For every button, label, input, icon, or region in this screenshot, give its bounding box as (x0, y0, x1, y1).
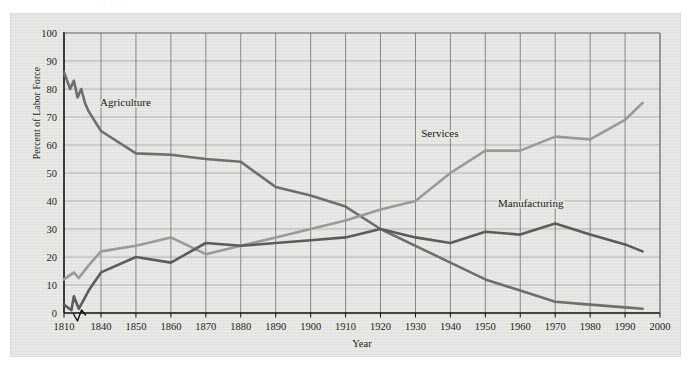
x-tick-label: 1910 (335, 321, 356, 332)
series-line-manufacturing (64, 223, 643, 310)
y-tick-label: 90 (47, 56, 58, 67)
x-axis-title: Year (352, 338, 372, 349)
y-tick-label: 10 (47, 280, 58, 291)
x-tick-label: 1810 (54, 321, 75, 332)
x-tick-label: 1960 (510, 321, 531, 332)
y-tick-label: 30 (47, 224, 58, 235)
x-tick-label: 1870 (195, 321, 216, 332)
x-tick-label: 1950 (475, 321, 496, 332)
x-tick-label: 1860 (160, 321, 181, 332)
y-tick-label: 70 (47, 112, 58, 123)
y-tick-label: 100 (41, 28, 57, 39)
figure-root: ·· ·· 0102030405060708090100181018401850… (0, 0, 691, 370)
x-tick-label: 1850 (125, 321, 146, 332)
x-tick-label: 1990 (615, 321, 636, 332)
y-tick-label: 60 (47, 140, 58, 151)
x-tick-label: 1890 (265, 321, 286, 332)
series-label-services: Services (421, 127, 458, 139)
line-chart: 0102030405060708090100181018401850186018… (0, 0, 691, 370)
y-tick-label: 40 (47, 196, 58, 207)
x-tick-label: 1900 (300, 321, 321, 332)
x-tick-label: 2000 (650, 321, 671, 332)
y-tick-label: 50 (47, 168, 58, 179)
series-label-manufacturing: Manufacturing (498, 197, 564, 209)
y-tick-label: 0 (52, 308, 57, 319)
x-tick-label: 1840 (91, 321, 112, 332)
y-tick-label: 80 (47, 84, 58, 95)
x-tick-label: 1880 (230, 321, 251, 332)
x-axis-break-symbol (74, 310, 86, 321)
x-tick-label: 1920 (370, 321, 391, 332)
x-tick-label: 1930 (405, 321, 426, 332)
series-line-services (64, 103, 643, 279)
series-label-agriculture: Agriculture (100, 96, 151, 108)
x-tick-label: 1970 (545, 321, 566, 332)
x-tick-label: 1980 (580, 321, 601, 332)
y-axis-title: Percent of Labor Force (32, 38, 42, 188)
plot-wrapper: 0102030405060708090100181018401850186018… (0, 0, 691, 370)
x-tick-label: 1940 (440, 321, 461, 332)
y-tick-label: 20 (47, 252, 58, 263)
